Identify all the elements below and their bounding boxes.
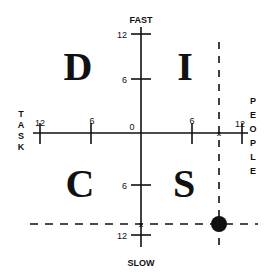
tick-label-left-6: 6 (89, 116, 94, 126)
quadrant-i: I (177, 44, 193, 89)
svg-text:T: T (18, 109, 24, 119)
tick-label-origin: 0 (129, 122, 134, 132)
svg-text:P: P (250, 138, 256, 148)
axis-x-mark: x (217, 129, 222, 138)
axis-y-mark: x (139, 220, 144, 229)
tick-label-right-12: 12 (235, 119, 245, 129)
quadrant-s: S (173, 161, 195, 206)
svg-text:L: L (250, 152, 256, 162)
tick-label-top-12: 12 (117, 30, 127, 40)
svg-text:K: K (18, 142, 25, 152)
label-fast: FAST (129, 15, 153, 25)
svg-text:O: O (249, 124, 256, 134)
label-task: T A S K (18, 109, 25, 152)
tick-label-bottom-6: 6 (122, 181, 127, 191)
tick-label-top-6: 6 (122, 75, 127, 85)
disc-diagram: x x FAST SLOW T A S K P E O P L E 12 6 6… (0, 0, 272, 277)
label-slow: SLOW (128, 258, 156, 268)
tick-label-bottom-12: 12 (117, 231, 127, 241)
svg-text:S: S (18, 131, 24, 141)
tick-label-right-6: 6 (189, 116, 194, 126)
svg-text:P: P (250, 96, 256, 106)
quadrant-c: C (66, 161, 95, 206)
svg-text:E: E (250, 110, 256, 120)
tick-label-left-12: 12 (35, 118, 45, 128)
label-people: P E O P L E (249, 96, 256, 176)
plot-marker (211, 216, 227, 232)
svg-text:A: A (18, 120, 25, 130)
quadrant-d: D (64, 44, 93, 89)
svg-text:E: E (250, 166, 256, 176)
